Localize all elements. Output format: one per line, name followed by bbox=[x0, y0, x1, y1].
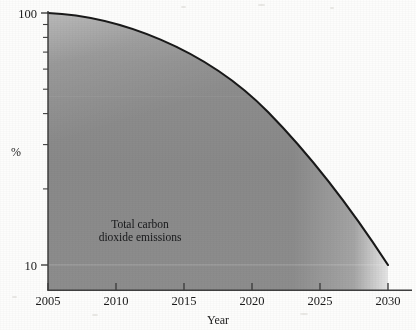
x-tick-label-2025: 2025 bbox=[308, 294, 333, 308]
x-tick-label-2020: 2020 bbox=[240, 294, 265, 308]
x-tick-label-2030: 2030 bbox=[376, 294, 401, 308]
x-tick-label-2005: 2005 bbox=[36, 294, 61, 308]
scan-line-mid bbox=[48, 96, 388, 97]
chart-figure: 100 10 % 2005 2010 2015 202 bbox=[0, 0, 416, 330]
y-tick-label-100: 100 bbox=[18, 7, 37, 21]
scan-line-at-ten bbox=[48, 264, 388, 265]
emissions-log-area-chart: 100 10 % 2005 2010 2015 202 bbox=[0, 0, 416, 330]
y-axis-major-ticks bbox=[41, 13, 48, 265]
area-fill-group bbox=[48, 13, 388, 290]
y-tick-label-10: 10 bbox=[25, 259, 38, 273]
x-axis-title: Year bbox=[207, 313, 229, 327]
annotation-line-1: Total carbon bbox=[111, 218, 169, 230]
x-tick-label-2015: 2015 bbox=[172, 294, 197, 308]
y-axis-title: % bbox=[11, 145, 21, 159]
area-edge-highlight bbox=[48, 13, 348, 183]
x-tick-labels: 2005 2010 2015 2020 2025 2030 bbox=[36, 294, 401, 308]
annotation-line-2: dioxide emissions bbox=[99, 231, 182, 243]
x-tick-label-2010: 2010 bbox=[104, 294, 129, 308]
